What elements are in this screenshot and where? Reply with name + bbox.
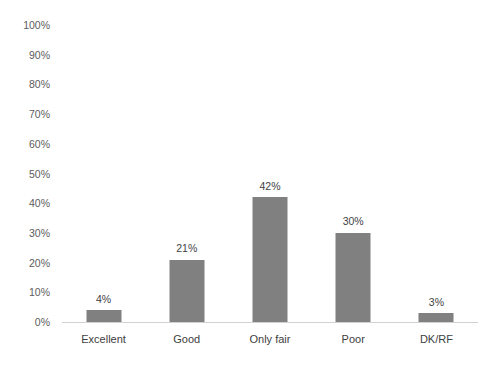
bar-value-label: 42% [259, 181, 280, 192]
bar-value-label: 4% [96, 294, 111, 305]
bar [252, 197, 287, 322]
bar-chart: 0%10%20%30%40%50%60%70%80%90%100% 4%21%4… [0, 0, 487, 369]
category-label: DK/RF [395, 334, 478, 345]
category-label: Good [145, 334, 228, 345]
bar [169, 260, 204, 322]
bar [86, 310, 121, 322]
bar-group: 30% [312, 25, 395, 322]
bar-value-label: 30% [343, 216, 364, 227]
bar-group: 42% [228, 25, 311, 322]
category-label: Poor [312, 334, 395, 345]
y-tick-label: 60% [0, 139, 50, 150]
x-axis-category-labels: ExcellentGoodOnly fairPoorDK/RF [62, 330, 478, 354]
bar-value-label: 3% [429, 297, 444, 308]
y-tick-label: 0% [0, 317, 50, 328]
y-tick-label: 10% [0, 287, 50, 298]
y-tick-label: 100% [0, 20, 50, 31]
plot-area: 4%21%42%30%3% [62, 25, 478, 322]
y-tick-label: 50% [0, 168, 50, 179]
y-tick-label: 80% [0, 79, 50, 90]
bar-group: 21% [145, 25, 228, 322]
bar-value-label: 21% [176, 243, 197, 254]
y-tick-label: 90% [0, 49, 50, 60]
y-tick-label: 30% [0, 228, 50, 239]
bar [336, 233, 371, 322]
bar [419, 313, 454, 322]
x-axis-baseline [62, 322, 478, 323]
bar-group: 4% [62, 25, 145, 322]
y-tick-label: 70% [0, 109, 50, 120]
bar-group: 3% [395, 25, 478, 322]
y-tick-label: 20% [0, 257, 50, 268]
y-axis: 0%10%20%30%40%50%60%70%80%90%100% [0, 0, 56, 369]
y-tick-label: 40% [0, 198, 50, 209]
category-label: Only fair [228, 334, 311, 345]
category-label: Excellent [62, 334, 145, 345]
